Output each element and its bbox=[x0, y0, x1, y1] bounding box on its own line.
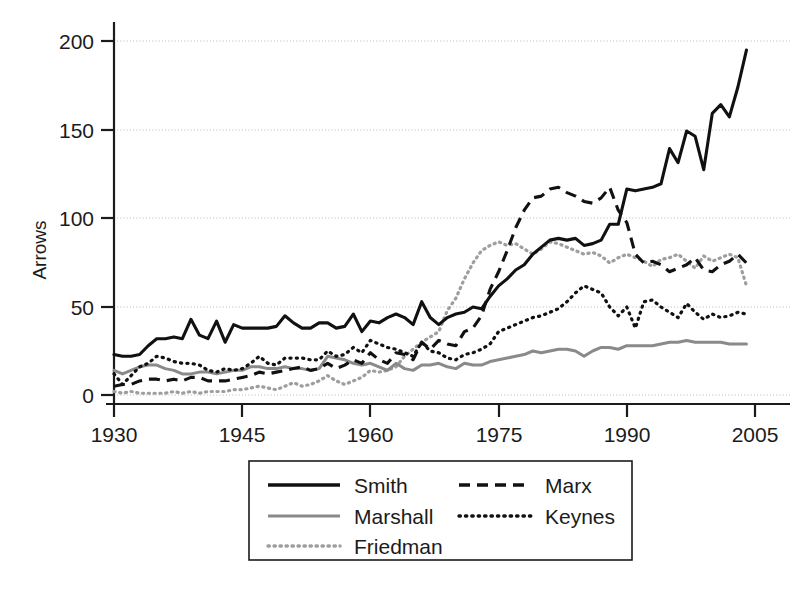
series-layer bbox=[114, 50, 746, 393]
x-axis: 1930 1945 1960 1975 1990 2005 bbox=[91, 404, 790, 446]
legend-label-keynes[interactable]: Keynes bbox=[545, 505, 615, 528]
series-line-marshall bbox=[114, 340, 746, 373]
y-axis-title: Arrows bbox=[29, 220, 50, 279]
y-axis: 200 150 100 50 0 Arrows bbox=[29, 22, 114, 407]
y-tick-label-0: 0 bbox=[82, 384, 94, 407]
line-chart: 200 150 100 50 0 Arrows 1930 1945 1960 1… bbox=[0, 0, 798, 589]
legend-label-marshall[interactable]: Marshall bbox=[354, 505, 433, 528]
series-line-marx bbox=[114, 187, 746, 386]
x-tick-label-1930: 1930 bbox=[91, 423, 138, 446]
legend-label-smith[interactable]: Smith bbox=[354, 474, 408, 497]
y-tick-label-200: 200 bbox=[59, 30, 94, 53]
series-line-smith bbox=[114, 50, 746, 356]
x-tick-label-1990: 1990 bbox=[604, 423, 651, 446]
legend-label-marx[interactable]: Marx bbox=[545, 474, 592, 497]
x-tick-label-1960: 1960 bbox=[347, 423, 394, 446]
legend-label-friedman[interactable]: Friedman bbox=[354, 535, 443, 558]
x-tick-label-1975: 1975 bbox=[476, 423, 523, 446]
x-tick-label-1945: 1945 bbox=[219, 423, 266, 446]
y-tick-label-150: 150 bbox=[59, 119, 94, 142]
y-tick-label-100: 100 bbox=[59, 207, 94, 230]
y-tick-label-50: 50 bbox=[71, 296, 94, 319]
chart-figure: 200 150 100 50 0 Arrows 1930 1945 1960 1… bbox=[0, 0, 798, 589]
x-tick-label-2005: 2005 bbox=[732, 423, 779, 446]
legend: Smith Marx Marshall Keynes Friedman bbox=[249, 461, 632, 560]
